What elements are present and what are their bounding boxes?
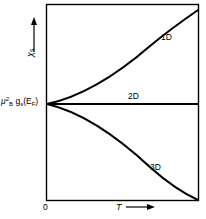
curve-1d [47,10,198,104]
curve-label-3d: 3D [150,163,161,172]
y-axis-arrow-head [31,17,37,25]
plot-frame [47,5,199,201]
curve-label-2d: 2D [128,92,139,101]
y-axis-label: χs [26,49,36,57]
y-axis-symbol: χ [25,52,35,57]
mu-symbol: μ [1,97,6,106]
y-axis-subscript: s [28,49,35,52]
susceptibility-figure: χs T 0 μ2B gs(EF) 1D 2D 3D [0,0,206,219]
curve-label-1d: 1D [161,33,172,42]
plot-canvas [0,0,206,219]
x-axis-label: T [116,203,122,212]
curve-3d [47,104,198,200]
pauli-susceptibility-label: μ2B gs(EF) [1,96,38,107]
x-axis-arrow-head [147,204,155,210]
dos-argument-open: (E [23,96,32,106]
dos-argument-close: ) [35,96,38,106]
origin-label: 0 [43,203,48,212]
